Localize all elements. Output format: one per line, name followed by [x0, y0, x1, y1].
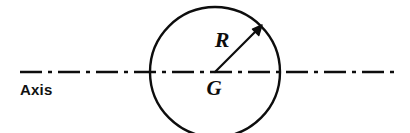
radius-label: R — [214, 27, 230, 52]
diagram-background — [0, 0, 410, 133]
sphere-radius-on-axis-diagram: Axis R G — [0, 0, 410, 133]
diagram-canvas: Axis R G — [0, 0, 410, 133]
center-point-label: G — [206, 76, 221, 100]
axis-label: Axis — [20, 81, 53, 98]
